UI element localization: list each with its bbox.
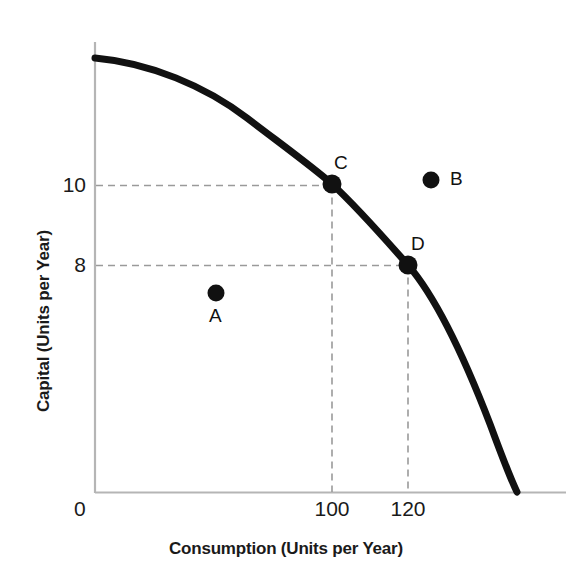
data-point-label-b: B [450,168,463,190]
data-point-label-d: D [411,233,425,255]
data-point-b-marker [423,172,440,189]
x-axis-title: Consumption (Units per Year) [0,539,572,559]
ppf-curve [95,58,517,492]
x-tick-label-100: 100 [304,497,360,521]
y-tick-label-10: 10 [52,173,86,197]
x-tick-label-120: 120 [380,497,436,521]
data-point-a-marker [208,285,225,302]
data-point-label-a: A [209,305,222,327]
x-tick-label-0: 0 [74,497,86,521]
data-point-d-marker [399,256,418,275]
data-point-c-marker [323,175,342,194]
chart-plot-area [0,0,572,585]
y-axis-title: Capital (Units per Year) [34,230,54,412]
y-tick-label-8: 8 [52,253,86,277]
ppf-chart-figure: Consumption (Units per Year) Capital (Un… [0,0,572,585]
data-point-label-c: C [334,152,348,174]
